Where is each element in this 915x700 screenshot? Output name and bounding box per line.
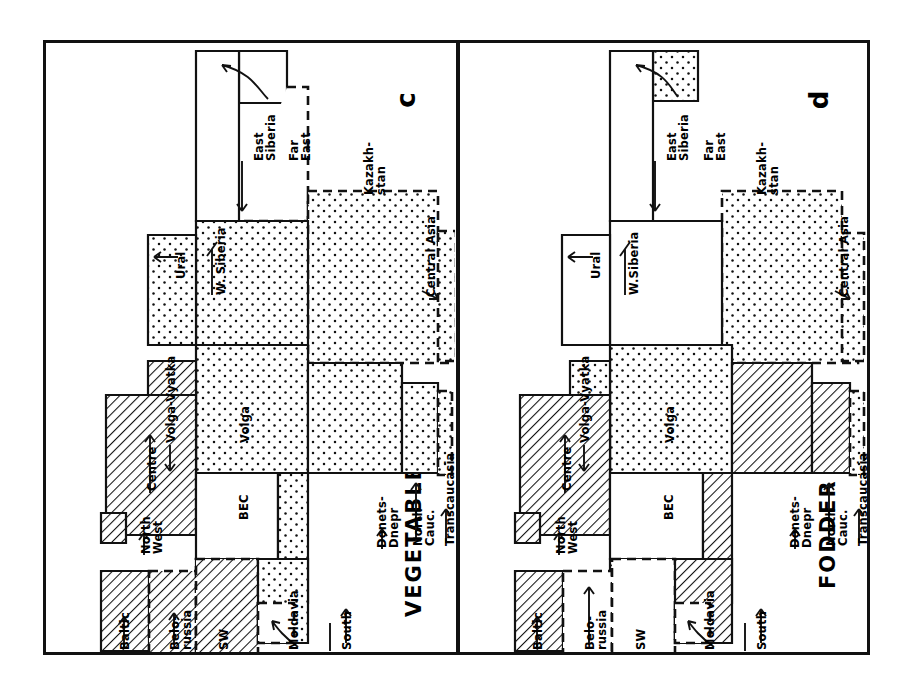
region-label-baltic: Baltic: [533, 612, 545, 650]
region-ural[interactable]: [148, 235, 196, 345]
region-label-donets-dnepr: Donets- Dnepr: [790, 496, 813, 548]
panel-vegetables: c VEGETABLES: [43, 40, 458, 655]
panel-fodder: d FODDER: [458, 40, 870, 655]
region-label-bec: BEC: [239, 494, 251, 520]
region-label-volga-vyatka: Volga-Vyatka: [580, 355, 592, 443]
region-volga[interactable]: [196, 345, 308, 473]
region-label-bec: BEC: [664, 494, 676, 520]
region-label-centre: Centre: [562, 446, 574, 491]
region-north-cauc[interactable]: [402, 383, 438, 473]
region-label-east-siberia: East Siberia: [254, 114, 277, 161]
region-label-south: South: [342, 611, 354, 650]
region-north-west[interactable]: [515, 513, 540, 543]
region-label-north-west: North West: [556, 516, 579, 554]
region-label-baltic: Baltic: [120, 612, 132, 650]
region-label-moldavia: Moldavia: [289, 590, 301, 650]
region-far-east[interactable]: [653, 51, 698, 101]
region-label-east-siberia: East Siberia: [667, 114, 690, 161]
cartogram-regions-fodder: [460, 43, 867, 652]
region-label-w-siberia: W.Siberia: [629, 231, 641, 295]
region-label-moldavia: Moldavia: [705, 590, 717, 650]
region-label-central-asia: Central Asia: [426, 216, 438, 297]
region-label-far-east: Far East: [704, 132, 727, 161]
panel-vegetables-inner: c VEGETABLES: [46, 43, 456, 652]
region-label-sw: SW: [636, 629, 648, 650]
region-label-ural: Ural: [591, 251, 603, 279]
region-label-central-asia: Central Asia: [839, 216, 851, 297]
region-north-cauc[interactable]: [812, 383, 850, 473]
region-label-volga: Volga: [665, 406, 677, 443]
region-label-transcaucasia: Transcaucasia: [858, 452, 870, 546]
region-label-belorussia: Belo- russia: [585, 610, 608, 650]
region-label-ural: Ural: [176, 251, 188, 279]
region-label-far-east: Far East: [289, 132, 312, 161]
cartogram-svg-fodder: [460, 43, 866, 652]
region-far-east[interactable]: [239, 51, 287, 103]
cartogram-svg-vegetables: [46, 43, 455, 652]
region-east-siberia[interactable]: [196, 51, 239, 221]
region-label-centre: Centre: [147, 446, 159, 491]
region-label-kazakhstan: Kazakh- stan: [364, 142, 387, 195]
region-label-sw: SW: [219, 629, 231, 650]
panel-fodder-inner: d FODDER: [460, 43, 867, 652]
region-label-north-west: North West: [141, 516, 164, 554]
region-bec[interactable]: [610, 473, 703, 559]
region-label-donets-dnepr: Donets- Dnepr: [377, 496, 400, 548]
region-label-north-cauc: North Cauc.: [413, 508, 436, 546]
region-east-siberia[interactable]: [610, 51, 653, 221]
region-label-volga-vyatka: Volga-Vyatka: [166, 355, 178, 443]
region-w-siberia[interactable]: [196, 221, 308, 345]
region-central-asia[interactable]: [438, 231, 455, 361]
region-label-w-siberia: W. Siberia: [216, 227, 228, 295]
region-label-south: South: [757, 611, 769, 650]
cartogram-regions-vegetables: [46, 43, 456, 652]
region-label-transcaucasia: Transcaucasia: [445, 452, 457, 546]
region-label-belorussia: Belo- russia: [170, 610, 193, 650]
region-north-west[interactable]: [101, 513, 126, 543]
figure-canvas: c VEGETABLES: [0, 0, 915, 700]
region-label-kazakhstan: Kazakh- stan: [757, 142, 780, 195]
region-label-volga: Volga: [240, 406, 252, 443]
region-label-north-cauc: North Cauc.: [826, 508, 849, 546]
